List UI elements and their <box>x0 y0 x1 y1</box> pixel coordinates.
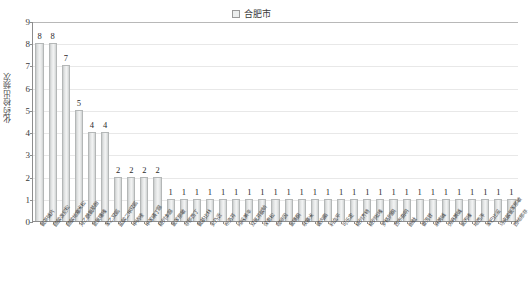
bar-value-label: 1 <box>182 187 186 197</box>
x-axis-label-slot: 螺内酯 <box>308 224 321 284</box>
bar-value-label: 1 <box>470 187 474 197</box>
bar-slot: 1 <box>308 22 321 221</box>
bar-slot: 1 <box>426 22 439 221</box>
x-axis-label-slot: 罗格列酮 <box>374 224 387 284</box>
bar-slot: 1 <box>230 22 243 221</box>
bar-value-label: 1 <box>208 187 212 197</box>
bar-slot: 1 <box>217 22 230 221</box>
bar-value-label: 1 <box>195 187 199 197</box>
x-axis-label-slot: 氯苯那敏 <box>163 224 176 284</box>
bar-slot: 1 <box>177 22 190 221</box>
bar-value-label: 1 <box>431 187 435 197</box>
bar-slot: 1 <box>479 22 492 221</box>
bar-value-label: 1 <box>365 187 369 197</box>
bar-value-label: 1 <box>260 187 264 197</box>
bar-value-label: 1 <box>326 187 330 197</box>
x-axis-labels: 氨茶碱片醋酸泼尼松醋酸地塞米松对乙酰氨基酚氢氯噻嗪苯乙双胍盐酸二甲双胍甲硝唑甲苯… <box>32 224 518 284</box>
bar-slot: 1 <box>321 22 334 221</box>
bar-value-label: 1 <box>339 187 343 197</box>
x-axis-label-slot: 氯噻酮 <box>282 224 295 284</box>
bar-slot: 1 <box>190 22 203 221</box>
bar-slot: 1 <box>361 22 374 221</box>
x-axis-label-slot: 格列齐特 <box>347 224 360 284</box>
x-axis-label-slot: 甲硝唑 <box>124 224 137 284</box>
bar-slot: 1 <box>387 22 400 221</box>
bar-slot: 8 <box>33 22 46 221</box>
bar-value-label: 2 <box>116 165 120 175</box>
bar-slot: 1 <box>335 22 348 221</box>
bar-value-label: 8 <box>51 31 55 41</box>
bar-value-label: 1 <box>247 187 251 197</box>
x-axis-label-slot: 利血平 <box>321 224 334 284</box>
bar-slot: 1 <box>256 22 269 221</box>
bar-slot: 1 <box>505 22 518 221</box>
bar-value-label: 1 <box>483 187 487 197</box>
bar-slot: 4 <box>85 22 98 221</box>
bar-value-label: 1 <box>391 187 395 197</box>
legend-label: 合肥市 <box>244 7 271 20</box>
bar-value-label: 1 <box>234 187 238 197</box>
x-axis-label-slot: 氯丙嗪 <box>453 224 466 284</box>
x-axis-label-slot: 保泰松 <box>255 224 268 284</box>
bar-value-label: 4 <box>90 120 94 130</box>
bar-slot: 1 <box>348 22 361 221</box>
bar-value-label: 1 <box>313 187 317 197</box>
bar-slot: 1 <box>453 22 466 221</box>
x-axis-label-slot: 番泻苷 <box>413 224 426 284</box>
x-axis-label-slot: 西布曲明 <box>387 224 400 284</box>
x-axis-label-slot: 双氯芬酸钠 <box>242 224 255 284</box>
x-axis-label-slot: 格列本脲 <box>150 224 163 284</box>
chart-legend: 合肥市 <box>232 7 271 20</box>
bar-value-label: 7 <box>64 53 68 63</box>
y-axis-tick-mark <box>30 222 33 223</box>
bar-slot: 1 <box>374 22 387 221</box>
x-axis-label-slot: 苯巴比妥 <box>479 224 492 284</box>
bar-value-label: 1 <box>273 187 277 197</box>
bar-slot: 2 <box>138 22 151 221</box>
bar-value-label: 8 <box>37 31 41 41</box>
x-axis-label-slot: 格列吡嗪 <box>361 224 374 284</box>
bar[interactable] <box>62 65 70 221</box>
bar-value-label: 1 <box>287 187 291 197</box>
bar-slot: 1 <box>295 22 308 221</box>
bar-value-label: 1 <box>378 187 382 197</box>
bar-value-label: 1 <box>404 187 408 197</box>
bar-value-label: 1 <box>352 187 356 197</box>
bar-slot: 1 <box>269 22 282 221</box>
plot-area: 0123456789 88754422221111111111111111111… <box>32 22 518 222</box>
bar-slot: 2 <box>151 22 164 221</box>
bar-slot: 1 <box>203 22 216 221</box>
x-axis-label-slot: 安乃近 <box>203 224 216 284</box>
x-axis-label-slot: 非那西丁 <box>177 224 190 284</box>
bar-slot: 7 <box>59 22 72 221</box>
bar[interactable] <box>49 43 57 221</box>
bar-slot: 1 <box>439 22 452 221</box>
bar[interactable] <box>35 43 43 221</box>
bar-value-label: 5 <box>77 98 81 108</box>
bar-value-label: 1 <box>169 187 173 197</box>
bar-slot: 8 <box>46 22 59 221</box>
x-axis-label-slot: 呋塞米 <box>295 224 308 284</box>
legend-square-icon <box>232 10 240 18</box>
x-axis-label-slot: 氢氯噻嗪 <box>85 224 98 284</box>
x-axis-label-slot: 西地那非 <box>505 224 518 284</box>
bar-value-label: 1 <box>457 187 461 197</box>
bar-value-label: 4 <box>103 120 107 130</box>
bar-value-label: 2 <box>129 165 133 175</box>
bar-slot: 2 <box>125 22 138 221</box>
x-axis-label-slot: 醋酸地塞米松 <box>58 224 71 284</box>
bar-slot: 5 <box>72 22 85 221</box>
x-axis-label-slot: 地西泮 <box>466 224 479 284</box>
x-axis-label-slot: 伪麻黄碱 <box>439 224 452 284</box>
bar-value-label: 1 <box>509 187 513 197</box>
bar-slot: 1 <box>282 22 295 221</box>
bar-slot: 1 <box>400 22 413 221</box>
bar-slot: 1 <box>466 22 479 221</box>
x-axis-label-slot: 氨茶碱片 <box>32 224 45 284</box>
bar-slot: 1 <box>413 22 426 221</box>
bar-slot: 1 <box>243 22 256 221</box>
x-axis-label-slot: 可乐定 <box>334 224 347 284</box>
x-axis-label-slot: 对乙酰氨基酚 <box>71 224 84 284</box>
bar-slot: 4 <box>99 22 112 221</box>
x-axis-label-slot: 吲哚美辛 <box>229 224 242 284</box>
